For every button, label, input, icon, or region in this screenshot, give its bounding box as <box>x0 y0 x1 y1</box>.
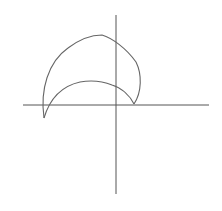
outer-arc <box>43 35 140 118</box>
diagram-svg <box>0 0 222 211</box>
diagram-canvas <box>0 0 222 211</box>
inner-arc <box>44 81 134 118</box>
